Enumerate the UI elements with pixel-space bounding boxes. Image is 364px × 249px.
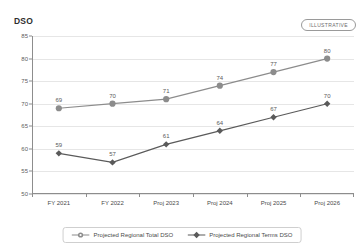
x-tick-label: Proj 2023: [153, 200, 179, 206]
data-point-label: 70: [324, 93, 331, 99]
y-tick-label: 80: [21, 56, 28, 62]
x-tick-mark: [353, 194, 354, 197]
data-point-label: 67: [270, 106, 277, 112]
data-point-label: 77: [270, 61, 277, 67]
x-tick-label: Proj 2024: [207, 200, 233, 206]
legend-circle-marker-icon: [72, 231, 90, 239]
series-line: [59, 59, 327, 109]
data-point-label: 61: [163, 133, 170, 139]
y-tick-label: 50: [21, 191, 28, 197]
data-point-circle-icon[interactable]: [163, 96, 169, 102]
data-point-diamond-icon[interactable]: [56, 150, 62, 156]
data-point-diamond-icon[interactable]: [163, 141, 169, 147]
x-tick-label: FY 2022: [101, 200, 124, 206]
chart-legend: Projected Regional Total DSO Projected R…: [63, 227, 302, 243]
data-point-label: 71: [163, 88, 170, 94]
data-point-label: 59: [55, 142, 62, 148]
chart-container: DSO ILLUSTRATIVE 5055606570758085 FY 202…: [0, 0, 364, 249]
data-point-diamond-icon[interactable]: [324, 101, 330, 107]
data-point-label: 69: [55, 97, 62, 103]
x-tick-mark: [139, 194, 140, 197]
data-point-label: 74: [216, 75, 223, 81]
x-tick-label: FY 2021: [48, 200, 71, 206]
legend-item-total-dso[interactable]: Projected Regional Total DSO: [72, 231, 174, 239]
data-point-label: 57: [109, 151, 116, 157]
page-title: DSO: [14, 16, 33, 26]
y-tick-label: 60: [21, 146, 28, 152]
x-tick-mark: [247, 194, 248, 197]
data-point-label: 64: [216, 120, 223, 126]
x-tick-mark: [300, 194, 301, 197]
series-line: [59, 104, 327, 163]
status-badge: ILLUSTRATIVE: [301, 19, 356, 31]
legend-item-terms-dso[interactable]: Projected Regional Terms DSO: [187, 231, 292, 239]
legend-label-terms-dso: Projected Regional Terms DSO: [209, 232, 292, 238]
y-tick-label: 85: [21, 33, 28, 39]
y-tick-label: 70: [21, 101, 28, 107]
legend-diamond-marker-icon: [187, 231, 205, 239]
y-tick-label: 75: [21, 78, 28, 84]
x-tick-mark: [193, 194, 194, 197]
x-tick-label: Proj 2026: [314, 200, 340, 206]
data-point-circle-icon[interactable]: [56, 105, 62, 111]
x-tick-mark: [86, 194, 87, 197]
data-point-diamond-icon[interactable]: [109, 159, 115, 165]
data-point-circle-icon[interactable]: [217, 83, 223, 89]
data-point-diamond-icon[interactable]: [217, 128, 223, 134]
data-point-circle-icon[interactable]: [324, 55, 330, 61]
legend-label-total-dso: Projected Regional Total DSO: [94, 232, 174, 238]
data-point-label: 70: [109, 93, 116, 99]
x-tick-label: Proj 2025: [261, 200, 287, 206]
y-tick-label: 55: [21, 168, 28, 174]
data-point-circle-icon[interactable]: [270, 69, 276, 75]
data-point-circle-icon[interactable]: [109, 101, 115, 107]
data-point-diamond-icon[interactable]: [270, 114, 276, 120]
plot-area: 5055606570758085 FY 2021FY 2022Proj 2023…: [32, 36, 354, 194]
x-tick-mark: [32, 194, 33, 197]
series-layer: [32, 36, 354, 194]
data-point-label: 80: [324, 48, 331, 54]
y-tick-label: 65: [21, 123, 28, 129]
